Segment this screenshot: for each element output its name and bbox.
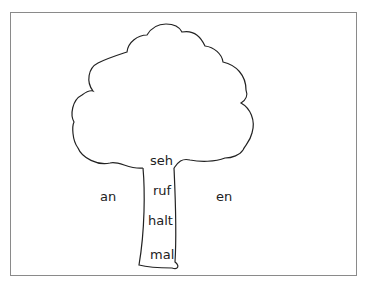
trunk-word-2: ruf <box>153 184 171 197</box>
trunk-word-4: mal <box>150 248 174 261</box>
prefix-word: an <box>100 190 116 203</box>
suffix-word: en <box>216 190 232 203</box>
trunk-word-1: seh <box>150 154 173 167</box>
tree-crown-outline <box>72 24 253 168</box>
trunk-word-3: halt <box>148 214 173 227</box>
tree-illustration <box>0 0 366 286</box>
